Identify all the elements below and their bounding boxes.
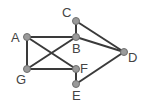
node-a — [24, 34, 31, 41]
node-label-b: B — [72, 41, 81, 56]
node-label-e: E — [72, 88, 81, 103]
node-label-d: D — [128, 50, 137, 65]
node-label-a: A — [11, 30, 20, 45]
node-c — [73, 18, 80, 25]
graph-svg: ABCDEFG — [0, 0, 144, 106]
node-label-g: G — [16, 72, 26, 87]
node-label-c: C — [62, 5, 71, 20]
node-d — [121, 49, 128, 56]
node-f — [73, 66, 80, 73]
node-label-f: F — [80, 61, 88, 76]
node-e — [73, 81, 80, 88]
node-b — [73, 34, 80, 41]
edge-b-d — [76, 37, 124, 52]
graph-diagram: ABCDEFG — [0, 0, 144, 106]
edge-c-d — [76, 21, 124, 52]
